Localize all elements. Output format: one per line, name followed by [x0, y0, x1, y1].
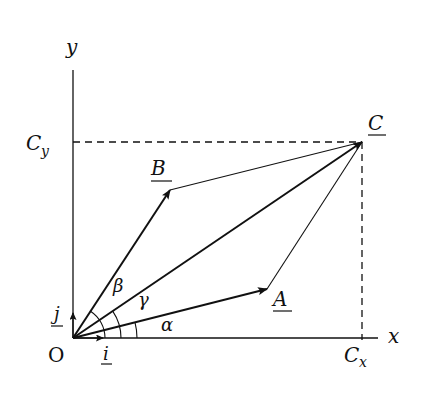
vector-c [73, 142, 362, 338]
x-axis-label: x [388, 324, 399, 348]
svg-text:x: x [359, 354, 367, 370]
vector-b [73, 190, 170, 338]
y-axis-label: y [65, 35, 78, 59]
angle-beta-label: β [112, 275, 123, 296]
vector-diagram: y x O C y C x C B A j i β γ α [0, 0, 424, 397]
vector-b-label: B [150, 156, 172, 181]
unit-i-label: i [101, 343, 112, 364]
vector-a-label: A [271, 287, 292, 311]
svg-text:i: i [103, 343, 109, 364]
gamma-arc [113, 311, 121, 338]
vector-c-label: C [368, 111, 386, 135]
alpha-arc [135, 322, 137, 338]
svg-text:C: C [344, 343, 359, 367]
svg-text:A: A [271, 287, 287, 311]
svg-text:C: C [26, 131, 41, 155]
parallelogram-side-a-to-c [267, 142, 362, 289]
cy-label: C y [26, 131, 50, 159]
cx-label: C x [344, 343, 367, 370]
svg-text:y: y [40, 143, 50, 159]
angle-gamma-label: γ [138, 289, 149, 310]
parallelogram-side-b-to-c [170, 142, 362, 190]
origin-label: O [48, 343, 64, 367]
svg-text:B: B [150, 156, 166, 180]
svg-text:j: j [50, 303, 60, 324]
unit-j-label: j [50, 303, 63, 326]
svg-text:C: C [368, 111, 383, 135]
angle-alpha-label: α [161, 314, 173, 335]
